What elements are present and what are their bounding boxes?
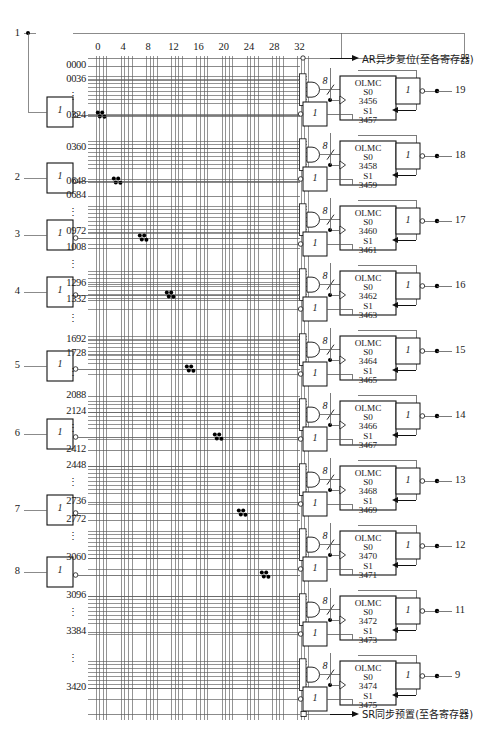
output-pin-19: 19 <box>455 84 466 95</box>
row-label-1332: 1332 <box>66 293 86 304</box>
oe-buffer-label-1: 1 <box>313 172 318 183</box>
sr-terminal <box>301 711 306 716</box>
bus-width-label-4: 8 <box>323 335 328 346</box>
fuse-dot-4-a <box>165 290 169 294</box>
row-ellipsis-2: ⋮ <box>68 258 78 269</box>
output-bubble-9 <box>420 674 425 679</box>
oe-buffer-label-9: 1 <box>313 692 318 703</box>
output-pin-12: 12 <box>455 539 466 550</box>
input-buffer-label-4: 1 <box>58 284 63 295</box>
oe-buffer-label-2: 1 <box>313 237 318 248</box>
output-buffer-label-8: 1 <box>406 604 411 615</box>
row-ellipsis-0: ⋮ <box>68 90 78 101</box>
input-buffer-bubble-6 <box>73 435 78 440</box>
fuse-dot-1-d <box>102 115 106 119</box>
fuse-dot-6-a <box>213 432 217 436</box>
input-pin-3: 3 <box>15 228 20 239</box>
input-buffer-label-3: 1 <box>58 227 63 238</box>
row-ellipsis-7: ⋮ <box>68 530 78 541</box>
bus-width-label-2: 8 <box>323 205 328 216</box>
fuse-dot-2-a <box>112 176 116 180</box>
input-pin-1: 1 <box>15 27 20 38</box>
output-buffer-label-0: 1 <box>406 84 411 95</box>
fuse-dot-5-c <box>187 369 191 373</box>
row-label-1728: 1728 <box>66 347 86 358</box>
output-pin-11: 11 <box>455 604 465 615</box>
fuse-dot-8-a <box>260 570 264 574</box>
fuse-dot-4-b <box>169 290 173 294</box>
row-label-2088: 2088 <box>66 389 86 400</box>
input-pin-5: 5 <box>15 359 20 370</box>
fuse-dot-1-b <box>100 110 104 114</box>
input-pin-4: 4 <box>15 285 20 296</box>
output-buffer-label-5: 1 <box>406 409 411 420</box>
input-pin-6: 6 <box>15 427 20 438</box>
output-bubble-1 <box>420 154 425 159</box>
sr-arrowhead <box>352 711 359 717</box>
and-input-bus-4 <box>300 334 307 366</box>
olmc-text-9: OLMCS03474S13475 <box>355 664 382 711</box>
row-label-2412: 2412 <box>66 443 86 454</box>
oe-buffer-bubble-7 <box>298 567 303 572</box>
row-label-3420: 3420 <box>66 681 86 692</box>
olmc-s1-value-3: 3463 <box>355 311 382 320</box>
row-ellipsis-9: ⋮ <box>68 652 78 663</box>
olmc-text-3: OLMCS03462S13463 <box>355 274 382 321</box>
column-label-20: 20 <box>219 41 230 52</box>
and-input-bus-8 <box>300 594 307 626</box>
row-ellipsis-8: ⋮ <box>68 606 78 617</box>
fuse-dot-5-a <box>185 364 189 368</box>
bus-width-label-1: 8 <box>323 140 328 151</box>
bus-width-label-8: 8 <box>323 595 328 606</box>
oe-buffer-label-7: 1 <box>313 562 318 573</box>
column-label-8: 8 <box>146 41 151 52</box>
fuse-dot-3-a <box>138 233 142 237</box>
fuse-dot-3-b <box>142 233 146 237</box>
row-label-2772: 2772 <box>66 513 86 524</box>
output-pin-9: 9 <box>455 669 460 680</box>
fuse-dot-5-d <box>191 369 195 373</box>
row-label-1692: 1692 <box>66 333 86 344</box>
output-bubble-7 <box>420 544 425 549</box>
oe-buffer-bubble-2 <box>298 242 303 247</box>
and-input-bus-7 <box>300 529 307 561</box>
row-label-0648: 0648 <box>66 175 86 186</box>
fuse-dot-3-d <box>144 238 148 242</box>
oe-buffer-label-4: 1 <box>313 367 318 378</box>
row-label-2124: 2124 <box>66 405 86 416</box>
sr-signal-label: SR同步预置(至各寄存器) <box>362 706 473 721</box>
and-gate-1 <box>307 147 320 162</box>
output-pin-16: 16 <box>455 279 466 290</box>
row-label-0036: 0036 <box>66 73 86 84</box>
input-buffer-bubble-3 <box>73 236 78 241</box>
fuse-dot-3-c <box>140 238 144 242</box>
output-buffer-label-2: 1 <box>406 214 411 225</box>
output-pin-15: 15 <box>455 344 466 355</box>
and-gate-9 <box>307 667 320 682</box>
bus-width-label-6: 8 <box>323 465 328 476</box>
fuse-dot-2-b <box>116 176 120 180</box>
row-label-1008: 1008 <box>66 241 86 252</box>
olmc-text-1: OLMCS03458S13459 <box>355 144 382 191</box>
row-ellipsis-3: ⋮ <box>68 312 78 323</box>
column-label-28: 28 <box>269 41 280 52</box>
row-ellipsis-1: ⋮ <box>68 206 78 217</box>
olmc-s1-value-4: 3465 <box>355 376 382 385</box>
pld-logic-array-diagram: 0481216202428321AR异步复位(至各寄存器)8OLMCS03456… <box>0 0 491 753</box>
input-buffer-label-2: 1 <box>58 170 63 181</box>
fuse-dot-5-b <box>189 364 193 368</box>
output-bubble-4 <box>420 349 425 354</box>
bus-width-label-7: 8 <box>323 530 328 541</box>
oe-buffer-label-3: 1 <box>313 302 318 313</box>
output-bubble-8 <box>420 609 425 614</box>
input-buffer-label-7: 1 <box>58 502 63 513</box>
olmc-text-8: OLMCS03472S13473 <box>355 599 382 646</box>
bus-width-label-0: 8 <box>323 75 328 86</box>
oe-buffer-bubble-3 <box>298 307 303 312</box>
fuse-dot-2-c <box>114 181 118 185</box>
and-gate-4 <box>307 342 320 357</box>
output-buffer-label-1: 1 <box>406 149 411 160</box>
olmc-s1-value-1: 3459 <box>355 181 382 190</box>
fuse-dot-6-c <box>215 437 219 441</box>
oe-buffer-label-5: 1 <box>313 432 318 443</box>
